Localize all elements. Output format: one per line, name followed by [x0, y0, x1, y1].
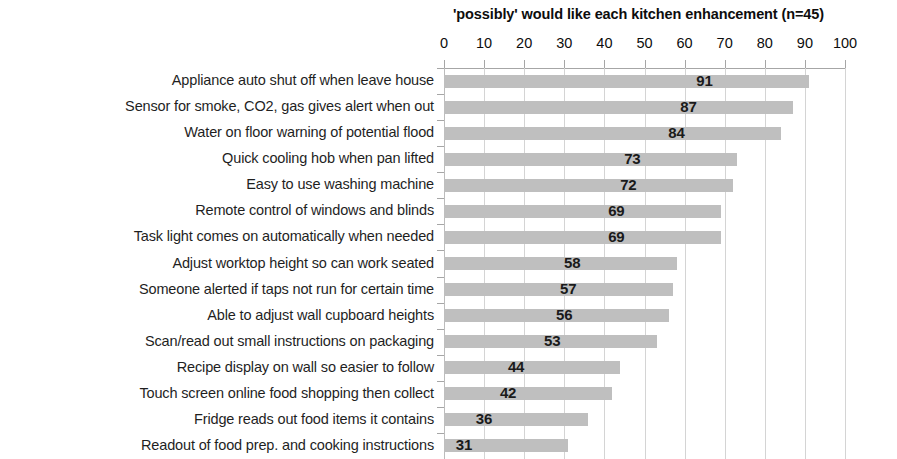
category-axis-tick	[437, 381, 444, 382]
gridline	[805, 68, 806, 459]
bar-value-label: 58	[444, 254, 580, 271]
bar-value-label: 31	[444, 436, 472, 453]
bar-value-label: 44	[444, 358, 524, 375]
value-axis-tick	[484, 60, 485, 68]
category-label: Readout of food prep. and cooking instru…	[0, 437, 434, 453]
category-axis-tick	[437, 68, 444, 69]
bar-value-label: 72	[444, 176, 636, 193]
value-axis-tick-label: 100	[820, 32, 870, 54]
plot-area: 918784737269695857565344423631	[444, 68, 845, 459]
chart-title: 'possibly' would like each kitchen enhan…	[380, 2, 897, 26]
bar-chart: 'possibly' would like each kitchen enhan…	[0, 0, 897, 459]
gridline	[845, 68, 846, 459]
category-label: Appliance auto shut off when leave house	[0, 72, 434, 88]
bar-value-label: 53	[444, 332, 560, 349]
category-axis-tick	[437, 433, 444, 434]
category-axis-tick	[437, 120, 444, 121]
category-axis-tick	[437, 94, 444, 95]
category-label: Able to adjust wall cupboard heights	[0, 307, 434, 323]
category-axis-tick	[437, 303, 444, 304]
bar-value-label: 69	[444, 228, 624, 245]
bar-value-label: 56	[444, 306, 572, 323]
value-axis-tick	[524, 60, 525, 68]
category-label: Scan/read out small instructions on pack…	[0, 333, 434, 349]
bar-value-label: 87	[444, 98, 697, 115]
value-axis-tick	[645, 60, 646, 68]
category-axis-tick	[437, 250, 444, 251]
category-axis-tick	[437, 172, 444, 173]
value-axis-tick	[564, 60, 565, 68]
category-label: Adjust worktop height so can work seated	[0, 255, 434, 271]
category-label: Touch screen online food shopping then c…	[0, 385, 434, 401]
value-axis-tick	[725, 60, 726, 68]
value-axis-tick-labels: 0102030405060708090100	[444, 32, 845, 54]
category-label: Fridge reads out food items it contains	[0, 411, 434, 427]
category-label: Quick cooling hob when pan lifted	[0, 150, 434, 166]
category-label: Someone alerted if taps not run for cert…	[0, 281, 434, 297]
category-label: Water on floor warning of potential floo…	[0, 124, 434, 140]
bar-value-label: 73	[444, 150, 640, 167]
category-label: Remote control of windows and blinds	[0, 202, 434, 218]
category-label: Recipe display on wall so easier to foll…	[0, 359, 434, 375]
category-axis-tick	[437, 198, 444, 199]
bar-value-label: 84	[444, 124, 685, 141]
category-label: Sensor for smoke, CO2, gas gives alert w…	[0, 98, 434, 114]
bar-value-label: 42	[444, 384, 516, 401]
value-axis-tick	[765, 60, 766, 68]
category-axis-tick	[437, 277, 444, 278]
category-axis-tick	[437, 407, 444, 408]
category-axis-tick	[437, 329, 444, 330]
bar-value-label: 36	[444, 410, 492, 427]
value-axis-tick	[805, 60, 806, 68]
category-label: Easy to use washing machine	[0, 176, 434, 192]
category-axis-tick	[437, 224, 444, 225]
value-axis-tick	[604, 60, 605, 68]
category-axis-tick	[437, 146, 444, 147]
bar-value-label: 57	[444, 280, 576, 297]
category-label: Task light comes on automatically when n…	[0, 228, 434, 244]
value-axis-tick	[685, 60, 686, 68]
bar-value-label: 91	[444, 72, 713, 89]
bar-value-label: 69	[444, 202, 624, 219]
category-axis-tick	[437, 355, 444, 356]
value-axis-tick	[845, 60, 846, 68]
value-axis-tick	[444, 60, 445, 68]
